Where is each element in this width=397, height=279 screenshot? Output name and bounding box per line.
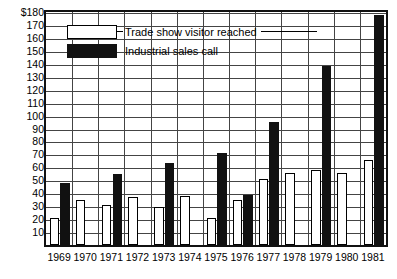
x-axis-tick-label: 1970	[72, 252, 98, 263]
bar-trade-show	[285, 173, 295, 245]
legend-item-industrial-sales: Industrial sales call	[67, 41, 317, 60]
bar-trade-show	[50, 218, 60, 245]
legend-item-trade-show: Trade show visitor reached	[67, 22, 317, 41]
y-axis-tick-label: 110	[0, 98, 44, 108]
legend-swatch-dark-icon	[67, 44, 117, 58]
bar-industrial-sales	[374, 15, 384, 245]
bar-industrial-sales	[243, 195, 253, 245]
x-axis-tick-label: 1974	[177, 252, 203, 263]
x-axis-tick-label: 1977	[255, 252, 281, 263]
bar-industrial-sales	[269, 122, 279, 245]
y-axis-tick-label: $180	[0, 7, 44, 17]
chart-screenshot: $180170160150140130120110100908070605040…	[0, 0, 397, 279]
y-axis-tick-label: 30	[0, 201, 44, 211]
y-axis-tick-label: 60	[0, 162, 44, 172]
x-axis-tick-label: 1979	[308, 252, 334, 263]
y-axis-tick-label: 80	[0, 136, 44, 146]
x-axis-tick-label: 1975	[203, 252, 229, 263]
bar-trade-show	[311, 170, 321, 245]
x-axis-tick-label: 1980	[334, 252, 360, 263]
chart-legend: Trade show visitor reached Industrial sa…	[67, 22, 317, 60]
bar-trade-show	[180, 196, 190, 245]
x-axis-tick-label: 1976	[229, 252, 255, 263]
bar-trade-show	[207, 218, 217, 245]
legend-swatch-light-icon	[67, 25, 117, 39]
bar-industrial-sales	[322, 66, 332, 245]
bar-group	[334, 12, 360, 245]
y-axis-tick-label: 10	[0, 227, 44, 237]
x-axis-tick-label: 1971	[98, 252, 124, 263]
bar-industrial-sales	[165, 163, 175, 245]
x-axis-tick-label: 1973	[151, 252, 177, 263]
bar-trade-show	[76, 200, 86, 245]
bar-trade-show	[128, 197, 138, 245]
y-axis-tick-label: 100	[0, 111, 44, 121]
y-axis-tick-label: 150	[0, 46, 44, 56]
legend-label-industrial-sales: Industrial sales call	[123, 45, 218, 57]
x-axis-tick-label: 1969	[46, 252, 72, 263]
y-axis-tick-label: 40	[0, 188, 44, 198]
bar-trade-show	[102, 205, 112, 245]
y-axis-tick-label: 140	[0, 59, 44, 69]
y-axis-tick-label: 70	[0, 149, 44, 159]
bar-trade-show	[364, 160, 374, 245]
bar-industrial-sales	[60, 183, 70, 245]
y-axis-tick-label: 130	[0, 72, 44, 82]
x-axis-tick-label: 1978	[281, 252, 307, 263]
bar-trade-show	[154, 207, 164, 245]
legend-label-trade-show: Trade show visitor reached	[123, 26, 257, 38]
legend-trailing-rule	[261, 31, 317, 33]
bar-industrial-sales	[217, 153, 227, 245]
x-axis-tick-label: 1972	[124, 252, 150, 263]
y-axis-tick-label: 50	[0, 175, 44, 185]
bar-industrial-sales	[113, 174, 123, 245]
legend-trailing-spacer	[222, 50, 317, 52]
y-axis-tick-label: 160	[0, 33, 44, 43]
x-axis-tick-label: 1981	[360, 252, 386, 263]
bar-trade-show	[233, 200, 243, 245]
y-axis-tick-label: 90	[0, 124, 44, 134]
bar-group	[360, 12, 386, 245]
y-axis-tick-label: 120	[0, 85, 44, 95]
bar-trade-show	[337, 173, 347, 245]
bar-trade-show	[259, 179, 269, 245]
y-axis-tick-label: 20	[0, 214, 44, 224]
y-axis-tick-label: 170	[0, 20, 44, 30]
